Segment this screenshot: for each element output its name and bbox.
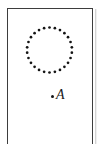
- dotted-circle: [26, 26, 73, 74]
- point-label-a: A: [56, 88, 65, 102]
- circle-bead: [70, 46, 73, 49]
- circle-bead: [30, 61, 33, 64]
- circle-bead: [27, 41, 30, 44]
- circle-bead: [27, 57, 30, 60]
- circle-bead: [63, 65, 66, 68]
- circle-bead: [70, 51, 73, 54]
- circle-bead: [43, 27, 46, 30]
- figure-panel: A: [0, 0, 103, 144]
- circle-bead: [43, 71, 46, 74]
- circle-bead: [69, 41, 72, 44]
- circle-bead: [54, 27, 57, 30]
- circle-bead: [63, 32, 66, 35]
- circle-bead: [33, 65, 36, 68]
- circle-bead: [38, 29, 41, 32]
- circle-bead: [59, 69, 62, 72]
- circle-bead: [67, 36, 70, 39]
- circle-bead: [54, 71, 57, 74]
- point-dot: [51, 95, 54, 98]
- circle-bead: [48, 26, 51, 29]
- point-a-marker: [51, 95, 54, 98]
- circle-bead: [48, 71, 51, 74]
- circle-bead: [38, 69, 41, 72]
- circle-bead: [59, 29, 62, 32]
- circle-bead: [67, 61, 70, 64]
- circle-bead: [26, 46, 29, 49]
- circle-bead: [26, 51, 29, 54]
- circle-bead: [69, 57, 72, 60]
- figure-drawing-canvas: [0, 0, 103, 144]
- circle-bead: [33, 32, 36, 35]
- circle-bead: [30, 36, 33, 39]
